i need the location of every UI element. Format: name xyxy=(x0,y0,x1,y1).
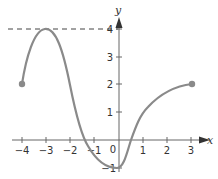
x-tick-label: 2 xyxy=(164,145,170,156)
x-tick-labels: −4 −3 −2 −1 0 1 2 3 xyxy=(15,144,195,156)
y-tick-label: 4 xyxy=(107,24,113,35)
y-tick-label: 3 xyxy=(107,52,113,63)
x-tick-label: 0 xyxy=(110,144,116,155)
right-endpoint-dot xyxy=(189,81,195,87)
x-tick-label: −2 xyxy=(63,145,78,156)
x-tick-label: 3 xyxy=(188,145,194,156)
function-graph: x y −4 −3 −2 −1 0 1 2 3 4 3 2 1 −1 xyxy=(0,0,218,179)
x-tick-label: 1 xyxy=(140,145,146,156)
x-axis-label: x xyxy=(207,134,214,147)
y-tick-label: 1 xyxy=(107,107,113,118)
x-tick-label: −4 xyxy=(15,145,30,156)
y-axis-arrow-icon xyxy=(116,17,123,28)
y-axis-label: y xyxy=(114,4,122,17)
x-tick-label: −3 xyxy=(39,145,54,156)
y-tick-label: 2 xyxy=(107,79,113,90)
left-endpoint-dot xyxy=(19,81,25,87)
